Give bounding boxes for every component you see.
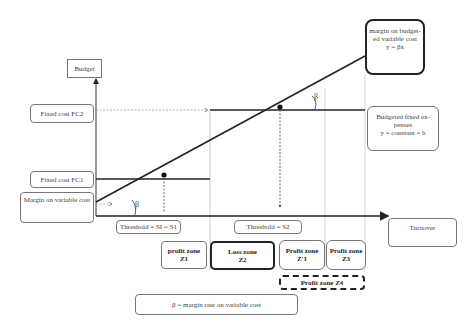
s2-drop-tip (279, 205, 281, 207)
zone-z1-title: profit zone (168, 247, 200, 255)
zone-z3-title: Profit zone (330, 247, 363, 255)
threshold-s1-text: Threshold = SI = S1 (120, 223, 177, 231)
turnover-text: Turnover (410, 224, 436, 232)
breakeven-point-s2 (277, 104, 282, 109)
fixed-cost-fc2-label: Fixed cost FC2 (30, 104, 94, 123)
fixed-expenses-line2: penses (370, 121, 436, 129)
margin-budgeted-line2: ed variable cost (369, 35, 421, 43)
margin-budgeted-line1: margin on budget- (369, 27, 421, 35)
angle-beta-label-bottom: β (135, 201, 139, 209)
breakeven-point-s1 (161, 172, 166, 177)
zone-z3: Profit zone Z3 (326, 240, 366, 270)
fixed-expenses-line3: y = constant = b (370, 129, 436, 137)
fixed-expenses-line1: Budgeted fixed ex- (370, 113, 436, 121)
fc2-text: Fixed cost FC2 (41, 110, 84, 118)
margin-variable-text: Margin on variable cost (24, 196, 91, 204)
fc1-text: Fixed cost FC1 (41, 176, 84, 184)
angle-beta-label-top: β (314, 93, 318, 101)
zone-z2-id: Z2 (238, 256, 246, 264)
zone-z2-title: Loss zone (228, 248, 257, 256)
zone-z4: Profit zone Z4 (279, 275, 365, 290)
margin-line (96, 56, 365, 202)
y-axis-label-budget: Budget (67, 59, 102, 78)
beta-legend-text: β = margin rate on variable cost (172, 301, 261, 309)
x-axis-label-turnover: Turnover (388, 218, 457, 247)
threshold-s2-label: Threshold = S2 (234, 220, 302, 234)
zone-z2: Loss zone Z2 (210, 241, 275, 270)
threshold-s1-label: Threshold = SI = S1 (116, 220, 181, 234)
margin-budgeted-line3: y = βx (369, 43, 421, 51)
budgeted-fixed-expenses-label: Budgeted fixed ex- penses y = constant =… (367, 106, 439, 151)
zone-z-prime-1-title: Profit zone (286, 247, 319, 255)
zone-z3-id: Z3 (342, 255, 350, 263)
zone-z4-text: Profit zone Z4 (301, 279, 344, 287)
zone-z1-id: Z1 (180, 255, 188, 263)
zone-z1: profit zone Z1 (161, 241, 207, 269)
beta-legend: β = margin rate on variable cost (135, 294, 298, 315)
zone-z-prime-1: Profit zone Z'1 (279, 240, 325, 270)
threshold-s2-text: Threshold = S2 (246, 223, 289, 231)
margin-variable-cost-label: Margin on variable cost (20, 192, 94, 223)
margin-budgeted-variable-cost-label: margin on budget- ed variable cost y = β… (365, 19, 425, 75)
budget-text: Budget (74, 65, 94, 73)
fixed-cost-fc1-label: Fixed cost FC1 (30, 171, 94, 188)
zone-z-prime-1-id: Z'1 (297, 255, 307, 263)
